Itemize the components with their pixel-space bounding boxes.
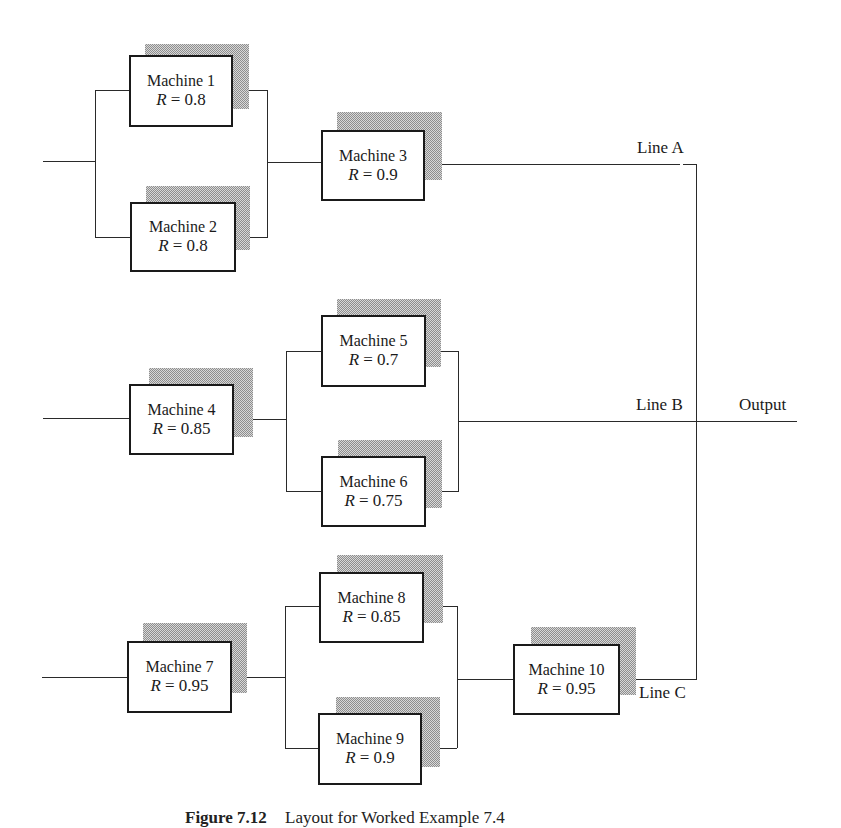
machine-3-block: Machine 3 R = 0.9 <box>321 130 425 201</box>
machine-3-name: Machine 3 <box>339 147 407 165</box>
machine-10-block: Machine 10 R = 0.95 <box>513 644 620 715</box>
machine-1-name: Machine 1 <box>147 72 215 90</box>
machine-10-reliability: R = 0.95 <box>537 679 595 699</box>
machine-9-reliability: R = 0.9 <box>345 748 395 768</box>
output-label: Output <box>739 395 786 415</box>
machine-9-block: Machine 9 R = 0.9 <box>318 713 422 785</box>
line-b-branch-top-in <box>286 351 321 352</box>
output-collector <box>696 164 697 680</box>
line-a-parallel-left <box>95 90 96 238</box>
line-a-branch-bottom-in <box>95 237 130 238</box>
line-a-output-end <box>683 164 697 165</box>
machine-6-reliability: R = 0.75 <box>344 491 402 511</box>
machine-5-block: Machine 5 R = 0.7 <box>321 315 426 387</box>
line-b-input <box>43 418 129 419</box>
line-c-input <box>42 677 127 678</box>
caption-number: Figure 7.12 <box>185 808 267 827</box>
line-a-branch-top-in <box>95 90 130 91</box>
machine-9-name: Machine 9 <box>336 730 404 748</box>
line-b-label: Line B <box>636 395 683 415</box>
line-c-branch-bottom-in <box>285 748 318 749</box>
machine-7-block: Machine 7 R = 0.95 <box>127 641 232 713</box>
caption-text: Layout for Worked Example 7.4 <box>285 808 505 827</box>
machine-2-block: Machine 2 R = 0.8 <box>130 202 236 272</box>
machine-10-name: Machine 10 <box>529 661 605 679</box>
machine-1-reliability: R = 0.8 <box>156 90 206 110</box>
line-b-branch-bottom-in <box>286 491 321 492</box>
line-c-parallel-right <box>457 606 458 748</box>
line-a-output <box>424 164 680 165</box>
machine-7-reliability: R = 0.95 <box>150 676 208 696</box>
machine-2-name: Machine 2 <box>149 218 217 236</box>
machine-8-name: Machine 8 <box>338 589 406 607</box>
machine-4-reliability: R = 0.85 <box>152 419 210 439</box>
machine-7-name: Machine 7 <box>146 658 214 676</box>
machine-8-block: Machine 8 R = 0.85 <box>319 572 424 643</box>
line-c-parallel-left <box>285 606 286 748</box>
machine-1-block: Machine 1 R = 0.8 <box>129 55 233 127</box>
machine-4-block: Machine 4 R = 0.85 <box>129 384 234 455</box>
machine-4-name: Machine 4 <box>148 401 216 419</box>
line-c-branch-top-in <box>285 606 319 607</box>
machine-8-reliability: R = 0.85 <box>342 607 400 627</box>
line-c-to-machine-10 <box>457 679 513 680</box>
line-b-parallel-left <box>286 351 287 492</box>
machine-6-name: Machine 6 <box>340 473 408 491</box>
line-a-parallel-right <box>267 90 268 238</box>
line-a-input <box>43 161 95 162</box>
machine-3-reliability: R = 0.9 <box>348 165 398 185</box>
machine-5-name: Machine 5 <box>340 332 408 350</box>
line-b-output <box>458 421 797 422</box>
machine-5-reliability: R = 0.7 <box>349 350 399 370</box>
machine-6-block: Machine 6 R = 0.75 <box>321 456 426 527</box>
machine-2-reliability: R = 0.8 <box>158 236 208 256</box>
line-a-label: Line A <box>637 138 684 158</box>
line-c-label: Line C <box>639 683 686 703</box>
line-a-to-machine-3 <box>267 162 321 163</box>
figure-caption: Figure 7.12 Layout for Worked Example 7.… <box>185 808 505 828</box>
